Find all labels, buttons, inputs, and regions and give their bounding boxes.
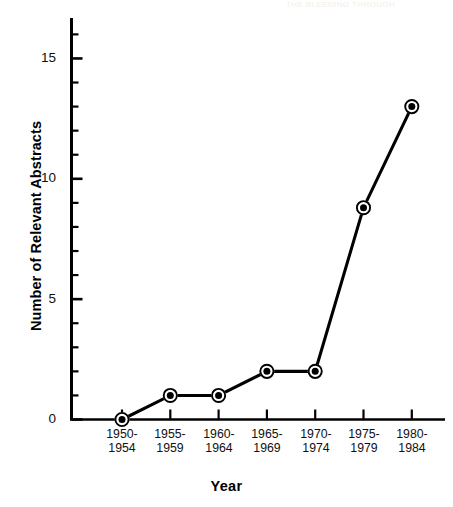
y-axis-ticks — [72, 34, 83, 419]
data-point-marker — [263, 368, 270, 375]
x-axis-ticks — [122, 410, 412, 420]
data-point-marker — [167, 392, 174, 399]
data-point-marker — [408, 103, 415, 110]
data-point-marker — [215, 392, 222, 399]
axes — [70, 18, 445, 420]
data-point-markers — [115, 99, 420, 427]
data-point-marker — [119, 416, 126, 423]
plot-area — [0, 0, 453, 507]
data-point-marker — [312, 368, 319, 375]
data-point-marker — [360, 204, 367, 211]
chart-figure: THE BLEEDING THROUGH Number of Relevant … — [0, 0, 453, 507]
